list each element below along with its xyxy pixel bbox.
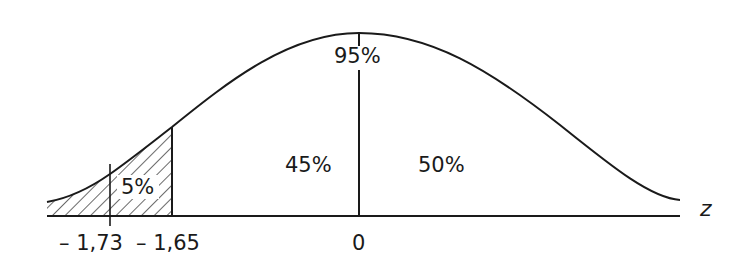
middle-area-label: 45% <box>285 155 332 176</box>
total-area-label: 95% <box>334 46 381 67</box>
tick-label-neg-1-73: – 1,73 <box>59 233 123 254</box>
right-area-label: 50% <box>418 155 465 176</box>
tick-label-neg-1-65: – 1,65 <box>136 233 200 254</box>
z-axis-label: z <box>700 198 712 220</box>
tick-label-zero: 0 <box>352 233 365 254</box>
tail-area-label: 5% <box>121 177 154 198</box>
